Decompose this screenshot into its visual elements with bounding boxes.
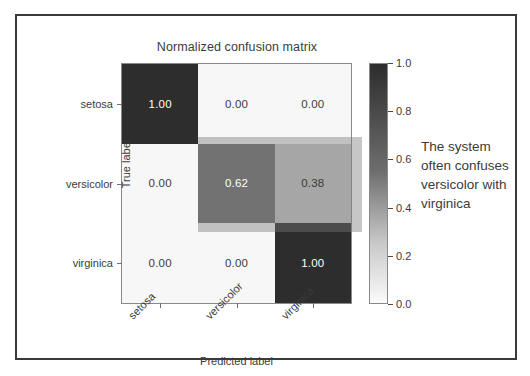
matrix-cell: 1.00 xyxy=(122,64,198,144)
y-tick-mark xyxy=(117,263,122,264)
y-tick-label-virginica: virginica xyxy=(73,257,113,269)
y-tick-mark xyxy=(117,104,122,105)
colorbar-tick-label: 0.0 xyxy=(396,298,411,310)
annotation-text: The systemoften confusesversicolor withv… xyxy=(421,137,530,213)
matrix-cell-value: 0.00 xyxy=(149,257,172,269)
x-tick-mark xyxy=(313,303,314,308)
colorbar: 1.00.80.60.40.20.0 xyxy=(369,63,388,304)
matrix-cell: 0.38 xyxy=(275,144,351,224)
annotation-line: versicolor with xyxy=(421,175,530,194)
x-tick-mark xyxy=(237,303,238,308)
colorbar-tick-mark xyxy=(388,256,393,257)
colorbar-tick-mark xyxy=(388,63,393,64)
x-axis-label: Predicted label xyxy=(121,355,352,367)
matrix-cell-value: 0.00 xyxy=(149,177,172,189)
colorbar-tick-label: 0.8 xyxy=(396,105,411,117)
matrix-cell-value: 1.00 xyxy=(301,257,324,269)
chart-title: Normalized confusion matrix xyxy=(121,40,353,54)
confusion-matrix-grid: 1.000.000.000.000.620.380.000.001.00 xyxy=(122,64,351,303)
colorbar-tick-label: 1.0 xyxy=(396,57,411,69)
matrix-cell: 0.00 xyxy=(275,64,351,144)
matrix-cell-value: 1.00 xyxy=(149,98,172,110)
colorbar-tick-mark xyxy=(388,159,393,160)
x-tick-mark xyxy=(160,303,161,308)
matrix-cell: 0.00 xyxy=(122,144,198,224)
annotation-line: virginica xyxy=(421,194,530,213)
annotation-line: The system xyxy=(421,137,530,156)
colorbar-tick-label: 0.2 xyxy=(396,250,411,262)
matrix-cell-value: 0.00 xyxy=(301,98,324,110)
matrix-cell-value: 0.62 xyxy=(225,177,248,189)
y-tick-label-setosa: setosa xyxy=(81,98,113,110)
y-tick-label-versicolor: versicolor xyxy=(66,178,113,190)
matrix-cell-value: 0.00 xyxy=(225,257,248,269)
figure-page: Normalized confusion matrix 1.000.000.00… xyxy=(0,0,530,376)
matrix-cell-value: 0.38 xyxy=(301,177,324,189)
confusion-matrix-plot: 1.000.000.000.000.620.380.000.001.00 Tru… xyxy=(121,63,352,304)
colorbar-tick-label: 0.6 xyxy=(396,153,411,165)
colorbar-gradient xyxy=(369,63,388,304)
matrix-cell-value: 0.00 xyxy=(225,98,248,110)
y-tick-mark xyxy=(117,184,122,185)
colorbar-tick-mark xyxy=(388,208,393,209)
y-axis-label: True label xyxy=(120,104,132,224)
annotation-line: often confuses xyxy=(421,156,530,175)
colorbar-tick-label: 0.4 xyxy=(396,202,411,214)
colorbar-tick-mark xyxy=(388,304,393,305)
matrix-cell: 0.00 xyxy=(122,223,198,303)
matrix-cell: 0.00 xyxy=(198,64,274,144)
figure-frame: Normalized confusion matrix 1.000.000.00… xyxy=(15,14,517,360)
matrix-cell: 0.62 xyxy=(198,144,274,224)
colorbar-tick-mark xyxy=(388,111,393,112)
